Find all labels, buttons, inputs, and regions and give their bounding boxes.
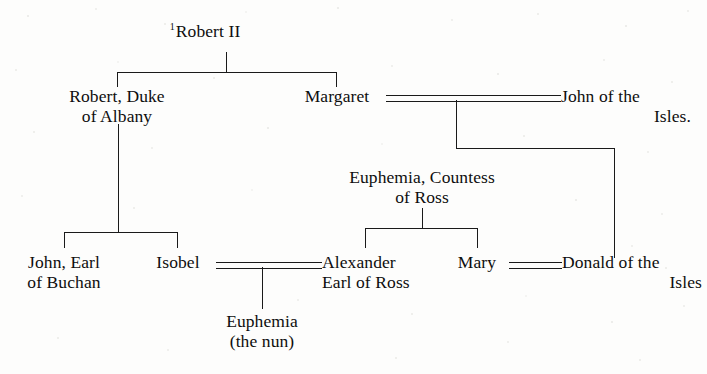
marriage-line-isobel-alexander xyxy=(216,262,322,269)
connector-robert-ii-sibling-bar xyxy=(117,72,336,73)
connector-drop-robert-albany xyxy=(117,72,118,87)
genealogical-tree: 1Robert II Robert, Duke of Albany Margar… xyxy=(0,0,707,374)
marriage-line-mary-donald xyxy=(509,262,562,269)
node-margaret: Margaret xyxy=(287,87,387,107)
connector-margaret-john-descent xyxy=(456,100,457,148)
connector-drop-margaret xyxy=(336,72,337,87)
connector-euphemia-ross-sibling-bar xyxy=(365,228,478,229)
connector-margaret-john-cross-bar xyxy=(456,148,615,149)
connector-drop-donald-isles xyxy=(614,148,615,258)
connector-robert-ii-stem xyxy=(226,52,227,72)
connector-drop-mary xyxy=(477,228,478,248)
footnote-marker: 1 xyxy=(170,21,175,32)
connector-drop-john-buchan xyxy=(64,232,65,248)
node-robert-ii: 1Robert II xyxy=(115,22,295,42)
connector-euphemia-ross-stem xyxy=(422,208,423,228)
node-isobel: Isobel xyxy=(137,253,219,273)
node-john-of-the-isles: John of the Isles. xyxy=(561,87,691,126)
connector-drop-alexander-ross xyxy=(365,228,366,248)
node-robert-ii-line1: 1Robert II xyxy=(115,22,295,42)
node-mary: Mary xyxy=(442,253,512,273)
node-robert-duke-of-albany: Robert, Duke of Albany xyxy=(27,87,207,126)
node-john-earl-of-buchan: John, Earl of Buchan xyxy=(0,253,128,292)
connector-albany-descent xyxy=(118,124,119,232)
marriage-line-margaret-john-of-the-isles xyxy=(386,95,561,102)
connector-isobel-alexander-descent xyxy=(262,267,263,309)
node-euphemia-countess-of-ross: Euphemia, Countess of Ross xyxy=(322,168,522,207)
connector-drop-isobel xyxy=(177,232,178,248)
node-donald-of-the-isles: Donald of the Isles xyxy=(562,253,702,292)
connector-albany-sibling-bar xyxy=(64,232,178,233)
node-euphemia-the-nun: Euphemia (the nun) xyxy=(192,312,332,351)
